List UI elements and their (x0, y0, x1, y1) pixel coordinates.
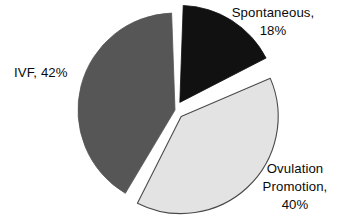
slice-label-ovulation-line1: Ovulation (248, 160, 342, 178)
slice-label-ivf: IVF, 42% (14, 64, 100, 82)
slice-label-spontaneous: Spontaneous, 18% (212, 4, 334, 40)
pie-chart-figure: Spontaneous, 18% IVF, 42% Ovulation Prom… (0, 0, 342, 223)
slice-label-ovulation-value: 40% (248, 196, 342, 214)
slice-label-ivf-line1: IVF, 42% (14, 64, 100, 82)
slice-label-ovulation-promotion: Ovulation Promotion, 40% (248, 160, 342, 213)
slice-label-spontaneous-value: 18% (212, 22, 334, 40)
slice-label-ovulation-line2: Promotion, (248, 178, 342, 196)
slice-label-spontaneous-line1: Spontaneous, (212, 4, 334, 22)
